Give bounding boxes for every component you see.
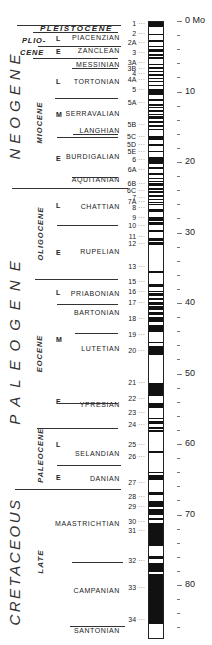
minor-tick (177, 472, 180, 473)
minor-tick (177, 388, 180, 389)
chron-leader: ··· (136, 121, 145, 128)
normal-polarity-band (149, 173, 163, 175)
chron-leader: ··· (136, 76, 145, 83)
period-label: PALEOGENE (7, 188, 24, 489)
minor-tick (177, 190, 180, 191)
stage-label: CHATTIAN (81, 203, 120, 210)
normal-polarity-band (149, 99, 163, 101)
chron-label: 28 ··· (123, 493, 145, 500)
normal-polarity-band (149, 427, 163, 429)
minor-tick (177, 345, 180, 346)
chron-number: 21 (128, 379, 136, 386)
normal-polarity-band (149, 107, 163, 108)
chron-label: 8 ··· (123, 204, 145, 211)
normal-polarity-band (149, 317, 163, 322)
minor-tick (177, 289, 180, 290)
normal-polarity-band (149, 472, 163, 473)
chron-label: 19 ··· (123, 331, 145, 338)
boundary-line (35, 279, 118, 280)
chron-label: 1 ··· (123, 20, 145, 27)
minor-tick (177, 613, 180, 614)
major-tick (177, 585, 182, 586)
boundary-line (57, 225, 118, 226)
normal-polarity-band (149, 144, 163, 146)
chron-leader: ··· (136, 187, 145, 194)
chron-number: 13 (128, 263, 136, 270)
normal-polarity-band (149, 71, 163, 72)
stage-label: PRIABONIAN (71, 290, 120, 297)
chron-leader: ··· (136, 395, 145, 402)
minor-tick (177, 402, 180, 403)
normal-polarity-band (149, 418, 163, 419)
normal-polarity-band (149, 64, 163, 65)
chron-label: 4A ··· (123, 76, 145, 83)
subepoch-label: L (56, 289, 60, 296)
normal-polarity-band (149, 293, 163, 295)
chron-label: 23 ··· (123, 409, 145, 416)
age-label: 30 (185, 227, 195, 237)
chron-leader: ··· (136, 30, 145, 37)
chron-label: 6A ··· (123, 166, 145, 173)
minor-tick (177, 275, 180, 276)
normal-polarity-band (149, 188, 163, 190)
chron-label: 5C ··· (123, 133, 145, 140)
stage-label: MESSINIAN (76, 61, 120, 68)
epoch-label: MIOCENE (36, 71, 45, 175)
normal-polarity-band (149, 403, 163, 407)
chron-label: 12 ··· (123, 240, 145, 247)
minor-tick (177, 627, 180, 628)
normal-polarity-band (149, 81, 163, 82)
major-tick (177, 92, 182, 93)
boundary-line (70, 626, 125, 627)
chron-leader: ··· (136, 214, 145, 221)
boundary-line (57, 304, 118, 305)
chron-leader: ··· (136, 133, 145, 140)
chron-number: 28 (128, 493, 136, 500)
normal-polarity-band (149, 306, 163, 310)
age-label: 50 (185, 368, 195, 378)
chron-label: 17 ··· (123, 299, 145, 306)
normal-polarity-band (149, 22, 163, 27)
normal-polarity-band (149, 67, 163, 68)
chron-number: 4A (128, 76, 136, 83)
normal-polarity-band (149, 302, 163, 305)
normal-polarity-band (149, 125, 163, 127)
chron-number: 6C (127, 187, 136, 194)
chron-leader: ··· (136, 479, 145, 486)
normal-polarity-band (149, 217, 163, 221)
boundary-line (17, 25, 121, 26)
stage-label: SERRAVALIAN (65, 110, 120, 117)
normal-polarity-band (149, 325, 163, 332)
normal-polarity-band (149, 501, 163, 507)
chron-number: 33 (128, 584, 136, 591)
chron-leader: ··· (136, 148, 145, 155)
minor-tick (177, 430, 180, 431)
normal-polarity-band (149, 451, 163, 454)
minor-tick (177, 77, 180, 78)
major-tick (177, 374, 182, 375)
normal-polarity-band (149, 129, 163, 130)
normal-polarity-band (149, 178, 163, 179)
normal-polarity-band (149, 57, 163, 58)
chron-leader: ··· (136, 584, 145, 591)
chron-label: 6 ··· (123, 156, 145, 163)
normal-polarity-band (149, 242, 163, 245)
chron-leader: ··· (136, 409, 145, 416)
chron-number: 16 (128, 288, 136, 295)
minor-tick (177, 500, 180, 501)
chron-leader: ··· (136, 453, 145, 460)
normal-polarity-band (149, 383, 163, 396)
chron-number: 15 (128, 278, 136, 285)
chron-label: 21 ··· (123, 379, 145, 386)
chron-label: 9 ··· (123, 214, 145, 221)
minor-tick (177, 204, 180, 205)
boundary-line (33, 32, 118, 33)
normal-polarity-band (149, 74, 163, 75)
normal-polarity-band (149, 116, 163, 118)
minor-tick (177, 176, 180, 177)
chron-number: 26 (128, 453, 136, 460)
major-tick (177, 303, 182, 304)
epoch-label-pliocene-1: PLIO- (22, 36, 46, 45)
age-label: 0 Mo (185, 15, 205, 25)
chron-leader: ··· (136, 180, 145, 187)
